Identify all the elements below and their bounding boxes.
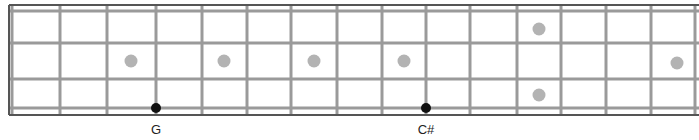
- inlay-dot-icon: [671, 57, 684, 70]
- note-label: G: [151, 122, 161, 137]
- inlay-dot-icon: [308, 55, 321, 68]
- fretboard-diagram: [0, 0, 699, 140]
- inlay-dot-icon: [218, 55, 231, 68]
- note-dot-icon: [151, 103, 161, 113]
- note-label: C#: [418, 122, 435, 137]
- inlay-dot-icon: [398, 55, 411, 68]
- inlay-dot-icon: [125, 55, 138, 68]
- inlay-dot-icon: [533, 23, 546, 36]
- note-dot-icon: [421, 103, 431, 113]
- inlay-dot-icon: [533, 89, 546, 102]
